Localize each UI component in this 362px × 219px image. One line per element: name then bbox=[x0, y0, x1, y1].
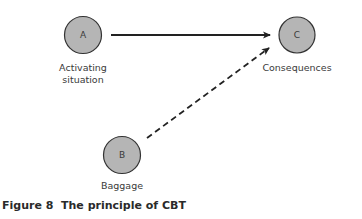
node-c-letter: C bbox=[287, 29, 307, 41]
node-b-letter: B bbox=[112, 149, 132, 161]
node-c-label: Consequences bbox=[252, 62, 342, 74]
node-a-label-line2: situation bbox=[43, 74, 123, 86]
cbt-diagram bbox=[0, 0, 362, 219]
node-a-label-line1: Activating bbox=[43, 62, 123, 74]
figure-caption: Figure 8 The principle of CBT bbox=[2, 199, 186, 212]
node-a-letter: A bbox=[73, 29, 93, 41]
edge-b-to-c bbox=[147, 48, 269, 138]
node-b-label: Baggage bbox=[82, 180, 162, 192]
